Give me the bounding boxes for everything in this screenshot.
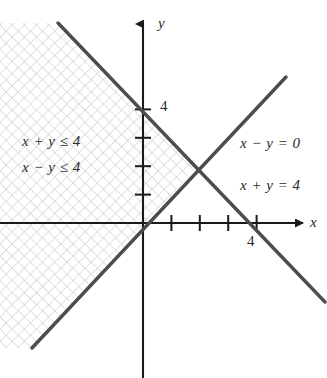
x-axis-label: x (310, 215, 317, 230)
inequality-label-x-plus-y: x + y ≤ 4 (22, 134, 81, 149)
line-label-x-plus-y-equals-4: x + y = 4 (240, 178, 301, 193)
x-axis-tick-label-4: 4 (247, 234, 255, 249)
inequality-graph-figure: x + y ≤ 4 x − y ≤ 4 x − y = 0 x + y = 4 … (0, 0, 327, 378)
y-axis-tick-label-4: 4 (160, 99, 168, 114)
shaded-feasible-region (0, 23, 199, 348)
inequality-label-x-minus-y: x − y ≤ 4 (22, 160, 81, 175)
line-label-x-minus-y-equals-0: x − y = 0 (240, 136, 301, 151)
y-axis-label: y (158, 16, 165, 31)
